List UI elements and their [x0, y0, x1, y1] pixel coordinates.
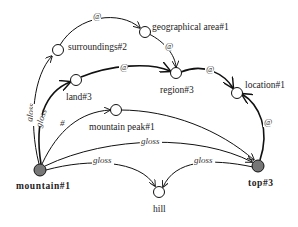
node-region3[interactable]	[171, 68, 182, 79]
edge-label-at-3: @	[119, 62, 128, 72]
node-top3[interactable]	[252, 160, 264, 172]
semantic-graph: gloss gloss # gloss gloss gloss @ @ @ @ …	[0, 0, 298, 227]
svg-text:@: @	[165, 41, 173, 51]
node-land3[interactable]	[71, 75, 82, 86]
edge-top-location	[242, 94, 264, 160]
node-hill[interactable]	[154, 187, 165, 198]
node-mountain1[interactable]	[34, 164, 46, 176]
label-mountainpeak1: mountain peak#1	[89, 122, 155, 132]
edge-label-hash: #	[60, 118, 66, 128]
label-location1: location#1	[245, 80, 285, 90]
edge-top-hill	[163, 162, 253, 187]
edge-label-at-2: @	[164, 41, 173, 51]
edge-surroundings-geoarea	[60, 18, 140, 45]
edge-label-at-4: @	[205, 64, 214, 74]
edge-label-gloss-2: gloss	[33, 104, 49, 129]
node-surroundings2[interactable]	[53, 45, 64, 56]
edge-label-gloss-5: gloss	[193, 155, 215, 165]
label-surroundings2: surroundings#2	[68, 42, 127, 52]
svg-text:gloss: gloss	[93, 155, 112, 165]
edge-label-gloss-3: gloss	[140, 136, 162, 146]
svg-text:@: @	[120, 62, 128, 72]
svg-text:gloss: gloss	[141, 136, 160, 146]
svg-text:gloss: gloss	[194, 155, 213, 165]
node-geoarea1[interactable]	[140, 27, 151, 38]
svg-text:@: @	[264, 117, 272, 127]
label-region3: region#3	[160, 85, 194, 95]
label-top3: top#3	[248, 178, 274, 188]
edge-label-at-1: @	[92, 11, 101, 21]
label-geoarea1: geographical area#1	[152, 22, 229, 32]
edge-label-gloss-4: gloss	[92, 155, 114, 165]
label-hill: hill	[153, 204, 166, 214]
node-location1[interactable]	[232, 88, 243, 99]
edge-mountainpeak-top	[120, 110, 254, 160]
edge-label-at-5: @	[263, 117, 272, 127]
svg-text:@: @	[93, 11, 101, 21]
svg-text:#: #	[60, 118, 65, 128]
svg-text:@: @	[206, 64, 214, 74]
label-mountain1: mountain#1	[16, 181, 71, 191]
node-mountainpeak1[interactable]	[111, 105, 122, 116]
label-land3: land#3	[66, 92, 92, 102]
